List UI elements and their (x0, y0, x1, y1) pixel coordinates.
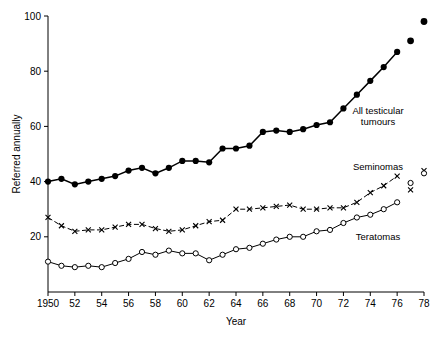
x-tick-label: 52 (69, 298, 81, 309)
data-point-filled-circle (99, 176, 105, 182)
x-tick-label: 56 (123, 298, 135, 309)
data-point-open-circle (86, 263, 91, 268)
data-point-open-circle (381, 207, 386, 212)
data-point-cross (301, 207, 306, 212)
data-point-cross (408, 187, 413, 192)
data-point-open-circle (139, 249, 144, 254)
data-point-filled-circle (327, 119, 333, 125)
line-chart-svg: 20406080100 1950525456586062646668707274… (0, 0, 437, 339)
x-axis-title: Year (226, 316, 247, 327)
x-tick-label: 60 (177, 298, 189, 309)
data-point-filled-circle (354, 92, 360, 98)
data-point-filled-circle (45, 179, 51, 185)
data-point-open-circle (193, 251, 198, 256)
data-point-open-circle (314, 229, 319, 234)
data-point-cross (368, 190, 373, 195)
data-point-open-circle (45, 259, 50, 264)
x-tick-label: 58 (150, 298, 162, 309)
x-tick-label: 1950 (37, 298, 60, 309)
x-axis-ticks: 19505254565860626466687072747678 (37, 292, 430, 309)
x-tick-label: 76 (392, 298, 404, 309)
annotation-teratomas: Teratomas (356, 231, 401, 242)
data-point-open-circle (421, 171, 426, 176)
data-point-filled-circle (340, 105, 346, 111)
data-point-filled-circle (193, 158, 199, 164)
data-point-open-circle (166, 248, 171, 253)
data-point-open-circle (207, 258, 212, 263)
data-point-cross (140, 222, 145, 227)
x-tick-label: 66 (257, 298, 269, 309)
x-tick-label: 64 (230, 298, 242, 309)
data-point-open-circle (395, 200, 400, 205)
data-point-open-circle (233, 247, 238, 252)
data-point-open-circle (247, 245, 252, 250)
data-point-open-circle (408, 180, 413, 185)
data-point-open-circle (354, 215, 359, 220)
x-tick-label: 62 (204, 298, 216, 309)
data-point-cross (395, 174, 400, 179)
data-point-filled-circle (394, 49, 400, 55)
y-axis-title: Referred annually (11, 115, 22, 194)
data-point-filled-circle (85, 179, 91, 185)
data-point-open-circle (287, 234, 292, 239)
data-point-filled-circle (179, 158, 185, 164)
x-tick-label: 54 (96, 298, 108, 309)
data-point-cross (354, 200, 359, 205)
data-point-open-circle (220, 252, 225, 257)
data-point-open-circle (260, 241, 265, 246)
data-point-filled-circle (206, 159, 212, 165)
data-point-cross (59, 223, 64, 228)
data-point-open-circle (99, 265, 104, 270)
y-tick-label: 40 (30, 176, 42, 187)
data-point-cross (234, 207, 239, 212)
data-point-open-circle (301, 234, 306, 239)
data-point-open-circle (72, 265, 77, 270)
data-point-filled-circle (166, 165, 172, 171)
data-point-filled-circle (273, 127, 279, 133)
y-tick-label: 100 (24, 11, 41, 22)
data-point-filled-circle (407, 37, 414, 44)
data-point-cross (381, 183, 386, 188)
data-point-open-circle (368, 212, 373, 217)
y-tick-label: 80 (30, 66, 42, 77)
data-point-filled-circle (125, 167, 131, 173)
data-point-filled-circle (381, 64, 387, 70)
data-point-filled-circle (72, 181, 78, 187)
data-point-open-circle (180, 251, 185, 256)
data-point-open-circle (274, 237, 279, 242)
annotation-line: Seminomas (353, 161, 403, 172)
x-tick-label: 78 (418, 298, 430, 309)
x-tick-label: 68 (284, 298, 296, 309)
data-point-filled-circle (58, 176, 64, 182)
annotation-line: All testicular (352, 105, 403, 116)
series-teratomas (45, 171, 426, 270)
annotation-line: Teratomas (356, 231, 401, 242)
data-point-filled-circle (152, 170, 158, 176)
data-point-filled-circle (260, 129, 266, 135)
data-point-open-circle (113, 260, 118, 265)
series-line (48, 52, 397, 184)
data-point-open-circle (59, 263, 64, 268)
x-tick-label: 70 (311, 298, 323, 309)
y-tick-label: 60 (30, 121, 42, 132)
data-point-open-circle (126, 256, 131, 261)
data-point-filled-circle (112, 173, 118, 179)
data-point-filled-circle (367, 78, 373, 84)
data-point-filled-circle (139, 165, 145, 171)
y-tick-label: 20 (30, 231, 42, 242)
data-point-cross (193, 223, 198, 228)
data-point-filled-circle (219, 145, 225, 151)
y-axis-ticks: 20406080100 (24, 11, 48, 243)
data-point-filled-circle (421, 18, 428, 25)
data-point-open-circle (153, 252, 158, 257)
data-point-filled-circle (246, 143, 252, 149)
data-point-filled-circle (300, 126, 306, 132)
data-point-open-circle (327, 227, 332, 232)
chart-figure: 20406080100 1950525456586062646668707274… (0, 0, 437, 339)
data-point-cross (220, 218, 225, 223)
annotation-line: tumours (361, 116, 396, 127)
x-tick-label: 74 (365, 298, 377, 309)
data-point-filled-circle (233, 145, 239, 151)
data-point-open-circle (341, 220, 346, 225)
series-annotations: All testiculartumoursSeminomasTeratomas (352, 105, 403, 242)
